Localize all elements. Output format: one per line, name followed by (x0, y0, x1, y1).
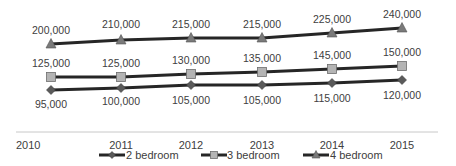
series-3-bedroom: 125,000125,000130,000135,000145,000150,0… (32, 46, 421, 82)
data-label: 125,000 (32, 57, 70, 69)
diamond-marker (258, 81, 267, 90)
data-label: 210,000 (102, 18, 140, 30)
data-label: 105,000 (172, 94, 210, 106)
square-marker (328, 65, 337, 74)
square-marker (258, 68, 267, 77)
diamond-marker (109, 152, 116, 159)
series-line (51, 28, 402, 44)
series-layer: 95,000100,000105,000105,000115,000120,00… (32, 8, 421, 110)
legend-item-4-bedroom: 4 bedroom (303, 149, 383, 161)
square-marker (398, 62, 407, 71)
data-label: 95,000 (35, 98, 67, 110)
square-marker (117, 73, 126, 82)
data-label: 145,000 (313, 49, 351, 61)
diamond-marker (47, 86, 56, 95)
legend-label: 2 bedroom (126, 149, 179, 161)
data-label: 240,000 (383, 8, 421, 20)
diamond-marker (187, 81, 196, 90)
series-line (51, 80, 402, 90)
data-label: 100,000 (102, 95, 140, 107)
data-label: 135,000 (243, 52, 281, 64)
square-marker (211, 152, 218, 159)
data-label: 125,000 (102, 57, 140, 69)
series-4-bedroom: 200,000210,000215,000215,000225,000240,0… (32, 8, 421, 48)
data-label: 150,000 (383, 46, 421, 58)
legend-label: 4 bedroom (330, 149, 383, 161)
data-label: 215,000 (172, 18, 210, 30)
data-label: 115,000 (313, 92, 350, 104)
diamond-marker (328, 79, 337, 88)
data-label: 200,000 (32, 24, 70, 36)
x-tick-label: 2010 (16, 139, 40, 151)
data-label: 225,000 (313, 13, 351, 25)
data-label: 130,000 (172, 54, 210, 66)
legend-label: 3 bedroom (227, 149, 280, 161)
x-tick-label: 2015 (390, 139, 414, 151)
diamond-marker (398, 76, 407, 85)
square-marker (187, 70, 196, 79)
legend: 2 bedroom3 bedroom4 bedroom (99, 149, 383, 161)
x-tick-label: 2012 (179, 139, 203, 151)
legend-item-3-bedroom: 3 bedroom (201, 149, 280, 161)
diamond-marker (117, 84, 126, 93)
line-chart: 95,000100,000105,000105,000115,000120,00… (0, 0, 456, 166)
series-2-bedroom: 95,000100,000105,000105,000115,000120,00… (35, 76, 421, 111)
data-label: 120,000 (383, 89, 421, 101)
data-label: 105,000 (243, 94, 281, 106)
data-label: 215,000 (243, 18, 281, 30)
square-marker (47, 73, 56, 82)
